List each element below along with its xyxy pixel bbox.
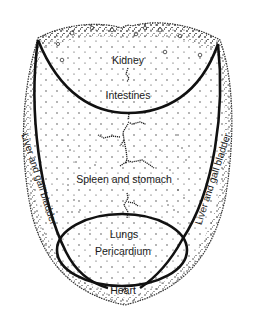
- label-pericardium: Pericardium: [95, 245, 151, 257]
- label-kidney: Kidney: [112, 54, 145, 66]
- label-spleen-stomach: Spleen and stomach: [76, 173, 172, 185]
- label-lungs: Lungs: [110, 228, 139, 240]
- tongue-diagram: Kidney Intestines Spleen and stomach Lun…: [0, 0, 255, 327]
- label-heart: Heart: [110, 284, 136, 296]
- label-intestines: Intestines: [106, 89, 151, 101]
